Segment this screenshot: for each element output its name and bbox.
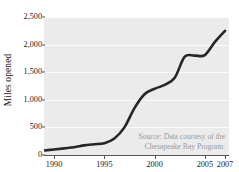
y-tick-mark — [42, 17, 45, 18]
x-tick-label: 2000 — [146, 161, 162, 170]
x-tick-mark — [54, 155, 55, 159]
x-tick-mark — [104, 155, 105, 159]
chart-figure: Miles opened 05001,0001,5002,0002,500 So… — [0, 0, 239, 172]
x-axis-ticks: 19901995200020052007 — [0, 0, 239, 172]
x-tick-label: 2005 — [197, 161, 213, 170]
x-tick-label: 1990 — [46, 161, 62, 170]
x-tick-label: 2007 — [217, 161, 233, 170]
y-tick-mark — [42, 99, 45, 100]
y-tick-mark — [42, 72, 45, 73]
x-tick-label: 1995 — [96, 161, 112, 170]
y-tick-mark — [42, 127, 45, 128]
x-tick-mark — [205, 155, 206, 159]
x-tick-mark — [225, 155, 226, 159]
x-tick-mark — [155, 155, 156, 159]
y-tick-mark — [42, 44, 45, 45]
y-tick-mark — [42, 155, 45, 156]
